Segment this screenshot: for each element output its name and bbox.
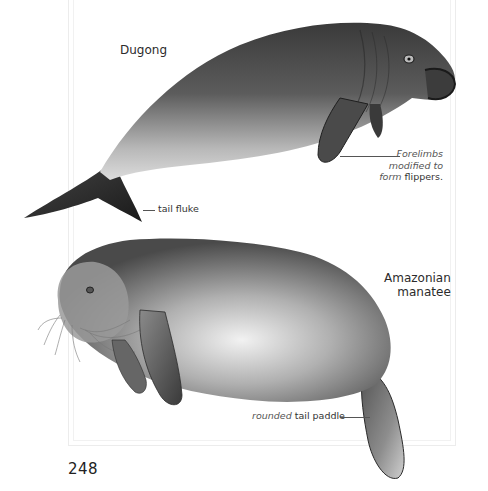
forelimbs-line2: modified to	[389, 160, 443, 171]
manatee-eye	[87, 287, 94, 293]
paddle-leader-line	[340, 417, 370, 418]
paddle-italic: rounded	[252, 410, 292, 421]
forelimbs-leader-line	[340, 156, 400, 157]
manatee-title: Amazonian manatee	[384, 271, 451, 299]
manatee-title-line2: manatee	[384, 285, 451, 299]
dugong-title: Dugong	[120, 43, 167, 57]
manatee-title-line1: Amazonian	[384, 271, 451, 285]
tail-paddle-caption: rounded tail paddle	[252, 410, 345, 422]
manatee-illustration	[38, 239, 404, 479]
dugong-illustration	[24, 23, 455, 222]
tail-fluke-caption: tail fluke	[158, 203, 199, 215]
page-number: 248	[68, 460, 98, 478]
paddle-plain: tail paddle	[295, 410, 345, 421]
forelimbs-caption: Forelimbs modified to form flippers.	[379, 148, 443, 183]
forelimbs-line3-italic: form	[379, 171, 401, 182]
forelimbs-line1: Forelimbs	[396, 148, 443, 159]
illustrations	[0, 0, 488, 491]
fluke-leader-line	[143, 210, 155, 211]
forelimbs-line3-plain: flippers.	[405, 171, 443, 182]
